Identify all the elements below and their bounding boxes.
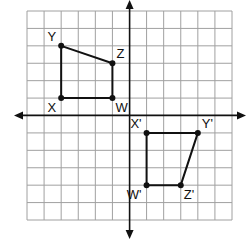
vertex-label-z-prime: Z' <box>184 187 194 202</box>
y-axis-bottom-arrow-icon <box>126 230 134 239</box>
vertex-point-w-prime <box>144 182 150 188</box>
vertex-label-y-prime: Y' <box>202 116 213 131</box>
vertex-point-y-prime <box>195 130 201 136</box>
polygon-outline <box>61 46 112 98</box>
polygon-outline <box>147 133 198 185</box>
image-polygon-wxyz-prime: X'Y'Z'W' <box>127 116 213 202</box>
preimage-polygon-wxyz: YZWX <box>47 29 128 115</box>
vertex-point-z <box>109 60 115 66</box>
vertex-label-w-prime: W' <box>127 187 142 202</box>
vertex-label-w: W <box>115 100 128 115</box>
vertex-label-x: X <box>47 100 56 115</box>
vertex-point-y <box>58 43 64 49</box>
x-axis-right-arrow-icon <box>237 111 246 119</box>
vertex-point-x-prime <box>144 130 150 136</box>
vertex-label-x-prime: X' <box>130 116 141 131</box>
coordinate-plane: YZWX X'Y'Z'W' <box>0 0 251 240</box>
vertex-label-z: Z <box>116 46 124 61</box>
x-axis-left-arrow-icon <box>14 111 23 119</box>
y-axis-top-arrow-icon <box>126 0 134 9</box>
vertex-label-y: Y <box>47 29 56 44</box>
vertex-point-x <box>58 95 64 101</box>
